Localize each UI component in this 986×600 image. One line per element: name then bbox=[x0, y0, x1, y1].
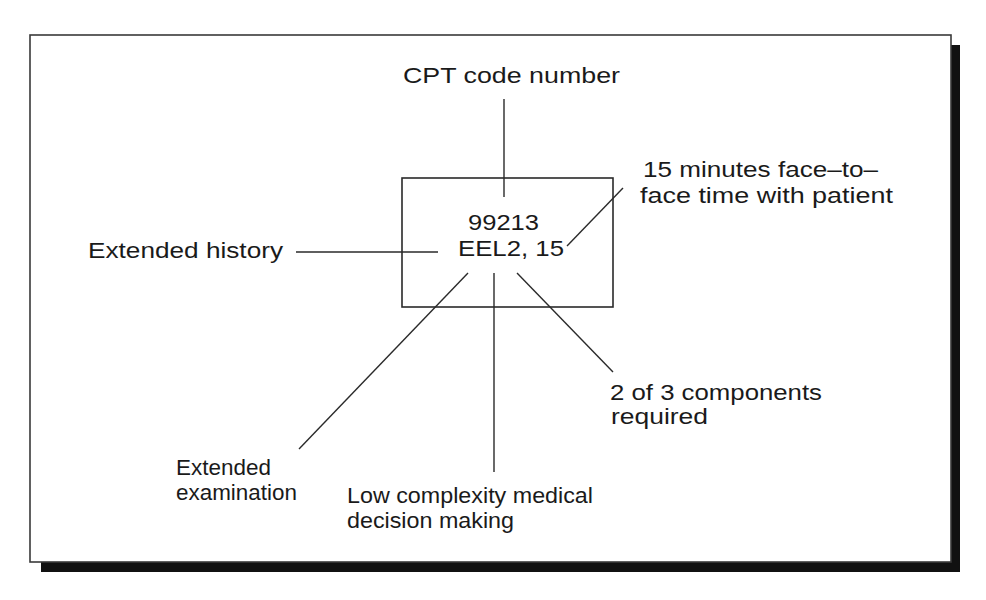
cpt-code-diagram: CPT code number 99213 EEL2, 15 Extended … bbox=[0, 0, 986, 600]
cpt-code-number-label: CPT code number bbox=[403, 63, 620, 88]
face-time-label-line2: face time with patient bbox=[640, 183, 893, 208]
extended-history-label: Extended history bbox=[88, 238, 283, 263]
decision-making-label-line1: Low complexity medical bbox=[347, 483, 593, 508]
extended-examination-label-line2: examination bbox=[176, 480, 297, 505]
cpt-code-descriptor: EEL2, 15 bbox=[458, 236, 564, 261]
cpt-code-value: 99213 bbox=[468, 210, 539, 235]
components-label-line2: required bbox=[611, 404, 708, 429]
extended-examination-label-line1: Extended bbox=[176, 455, 271, 480]
decision-making-label-line2: decision making bbox=[347, 508, 514, 533]
face-time-label-line1: 15 minutes face–to– bbox=[643, 157, 879, 182]
components-label-line1: 2 of 3 components bbox=[610, 380, 822, 405]
